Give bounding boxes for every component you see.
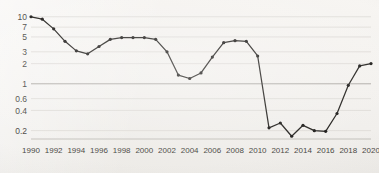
x-tick-label: 1996 bbox=[90, 146, 108, 155]
y-axis-labels: 10753210.60.40.2 bbox=[15, 12, 27, 136]
x-tick-label: 2012 bbox=[271, 146, 289, 155]
y-tick-label: 7 bbox=[22, 22, 27, 32]
chart-container: 10753210.60.40.2 19901992199419961998200… bbox=[0, 0, 379, 173]
data-point bbox=[313, 129, 316, 132]
data-point bbox=[63, 40, 66, 43]
data-point bbox=[86, 52, 89, 55]
y-tick-label: 2 bbox=[22, 59, 27, 69]
data-point bbox=[52, 27, 55, 30]
data-point bbox=[347, 84, 350, 87]
data-point bbox=[335, 112, 338, 115]
data-point bbox=[143, 36, 146, 39]
data-point bbox=[75, 49, 78, 52]
x-tick-label: 2006 bbox=[203, 146, 221, 155]
data-point bbox=[120, 36, 123, 39]
x-tick-label: 2008 bbox=[226, 146, 244, 155]
data-point bbox=[188, 77, 191, 80]
x-tick-label: 1992 bbox=[45, 146, 63, 155]
x-tick-label: 1998 bbox=[113, 146, 131, 155]
x-tick-label: 1990 bbox=[22, 146, 40, 155]
data-point bbox=[29, 15, 32, 18]
x-tick-label: 2020 bbox=[362, 146, 379, 155]
y-tick-label: 0.4 bbox=[15, 106, 27, 116]
data-point bbox=[279, 121, 282, 124]
data-point bbox=[358, 64, 361, 67]
data-point bbox=[256, 54, 259, 57]
data-point bbox=[369, 62, 372, 65]
data-point bbox=[41, 18, 44, 21]
y-tick-label: 0.6 bbox=[15, 94, 27, 104]
data-point bbox=[290, 135, 293, 138]
y-tick-label: 0.2 bbox=[15, 126, 27, 136]
data-point bbox=[301, 124, 304, 127]
data-point bbox=[97, 45, 100, 48]
x-tick-label: 1994 bbox=[67, 146, 85, 155]
x-tick-label: 2014 bbox=[294, 146, 312, 155]
data-point bbox=[211, 56, 214, 59]
data-point bbox=[165, 50, 168, 53]
data-point bbox=[177, 73, 180, 76]
data-point bbox=[154, 38, 157, 41]
y-tick-label: 3 bbox=[22, 47, 27, 57]
data-point bbox=[199, 71, 202, 74]
data-point bbox=[222, 41, 225, 44]
data-point bbox=[324, 130, 327, 133]
data-series-group bbox=[29, 15, 372, 138]
x-tick-label: 2010 bbox=[249, 146, 267, 155]
x-tick-label: 2018 bbox=[339, 146, 357, 155]
data-point bbox=[267, 126, 270, 129]
data-point bbox=[131, 36, 134, 39]
x-tick-label: 2000 bbox=[135, 146, 153, 155]
data-point bbox=[109, 38, 112, 41]
x-tick-label: 2004 bbox=[181, 146, 199, 155]
y-tick-label: 5 bbox=[22, 32, 27, 42]
x-tick-label: 2016 bbox=[317, 146, 335, 155]
data-point bbox=[233, 39, 236, 42]
line-chart: 10753210.60.40.2 19901992199419961998200… bbox=[0, 0, 379, 173]
x-axis-labels: 1990199219941996199820002002200420062008… bbox=[22, 146, 379, 155]
data-point bbox=[245, 40, 248, 43]
y-tick-label: 1 bbox=[22, 79, 27, 89]
y-tick-label: 10 bbox=[18, 12, 28, 22]
data-line-series-1 bbox=[31, 17, 371, 136]
x-tick-label: 2002 bbox=[158, 146, 176, 155]
